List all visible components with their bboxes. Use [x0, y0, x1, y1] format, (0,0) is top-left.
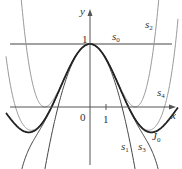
label-s3: s3	[138, 140, 146, 154]
label-s4: s4	[157, 86, 165, 100]
label-s0: s0	[112, 30, 120, 44]
label-J0: J0	[152, 130, 161, 144]
curve-s4	[6, 19, 178, 131]
y-axis-label: y	[79, 5, 85, 17]
label-s2: s2	[145, 18, 153, 32]
plot-area: y x 0 1 1 s0s1s2s3s4J0	[0, 0, 182, 169]
label-s1: s1	[121, 140, 129, 154]
x-axis-label: x	[170, 109, 176, 121]
y-tick-label: 1	[82, 33, 88, 45]
origin-label: 0	[80, 111, 86, 123]
y-axis-arrow-icon	[88, 9, 93, 16]
x-tick-label: 1	[103, 113, 109, 125]
series-labels: s0s1s2s3s4J0	[112, 18, 165, 154]
figure: y x 0 1 1 s0s1s2s3s4J0	[0, 0, 182, 169]
